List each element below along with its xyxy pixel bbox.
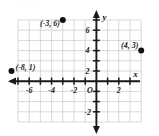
x-axis-name-label: x bbox=[132, 69, 138, 79]
y-axis-bottom-arrowhead bbox=[93, 126, 100, 134]
data-point-marker-b[interactable] bbox=[138, 48, 144, 54]
data-point-label-a: (-3, 6) bbox=[40, 19, 60, 28]
y-tick-label-neg2: -2 bbox=[84, 108, 91, 117]
x-tick-label-pos2: 2 bbox=[116, 86, 121, 95]
data-point-marker-a[interactable] bbox=[60, 17, 66, 23]
coordinate-plane-svg: -6 -4 -2 2 6 4 2 -2 O x y (-3, 6) (4, 3)… bbox=[0, 0, 159, 136]
data-point-marker-c[interactable] bbox=[9, 68, 15, 74]
y-axis-top-arrowhead bbox=[93, 10, 100, 18]
grid-lines bbox=[18, 20, 141, 122]
x-tick-label-neg4: -4 bbox=[48, 86, 55, 95]
y-axis bbox=[93, 10, 100, 134]
origin-label: O bbox=[87, 86, 93, 95]
y-tick-label-pos4: 4 bbox=[85, 46, 90, 55]
x-tick-label-neg2: -2 bbox=[71, 86, 78, 95]
y-tick-label-pos6: 6 bbox=[86, 26, 90, 35]
x-tick-label-neg6: -6 bbox=[26, 86, 33, 95]
x-axis-left-arrowhead bbox=[8, 78, 16, 85]
coordinate-plane-figure: · · bbox=[0, 0, 159, 136]
scan-artifact-text: · · bbox=[22, 0, 43, 8]
data-point-label-b: (4, 3) bbox=[121, 41, 139, 50]
y-tick-label-pos2: 2 bbox=[85, 67, 90, 76]
data-point-label-c: (-8, 1) bbox=[16, 63, 36, 72]
